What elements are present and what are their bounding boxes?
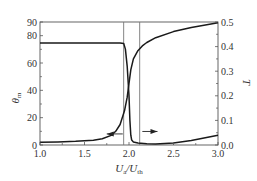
left-y-tick-label: 80 xyxy=(27,30,37,41)
left-y-tick-label: 60 xyxy=(27,58,37,69)
chart-canvas: 1.01.52.02.53.0 02040608090 0.00.10.20.3… xyxy=(0,0,257,181)
data-series xyxy=(40,23,218,144)
left-y-tick-label: 40 xyxy=(27,85,37,96)
right-y-tick-label: 0.5 xyxy=(221,17,234,28)
left-y-tick-label: 0 xyxy=(32,140,37,151)
x-tick-label: 2.0 xyxy=(123,148,136,159)
left-y-tick-label: 90 xyxy=(27,17,37,28)
x-tick-label: 1.5 xyxy=(78,148,91,159)
right-y-axis-label: T xyxy=(241,79,253,86)
x-axis-ticks: 1.01.52.02.53.0 xyxy=(34,142,225,159)
x-tick-label: 2.5 xyxy=(167,148,180,159)
right-y-tick-label: 0.1 xyxy=(221,115,234,126)
left-y-tick-label: 20 xyxy=(27,112,37,123)
right-y-tick-label: 0.3 xyxy=(221,66,234,77)
series-line-theta-m xyxy=(40,23,218,143)
right-y-tick-label: 0.4 xyxy=(221,41,234,52)
x-axis-label: Ua/Uth xyxy=(115,162,143,176)
right-y-tick-label: 0.2 xyxy=(221,90,234,101)
left-y-axis-label: θm xyxy=(9,92,23,103)
left-y-axis-ticks: 02040608090 xyxy=(27,17,43,151)
right-y-tick-label: 0.0 xyxy=(221,140,234,151)
series-line-t xyxy=(40,43,218,144)
arrow-right-icon xyxy=(150,129,157,134)
reference-vertical-lines xyxy=(124,22,140,145)
